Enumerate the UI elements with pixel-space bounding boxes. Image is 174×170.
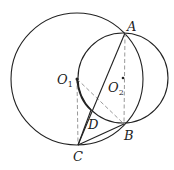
label-d: D — [87, 117, 99, 132]
label-b: B — [123, 128, 134, 143]
label-o2: O2 — [108, 80, 124, 97]
point-o2 — [122, 77, 125, 80]
point-o1 — [76, 78, 79, 81]
label-a: A — [126, 19, 136, 34]
label-o1: O1 — [57, 72, 73, 89]
geometry-diagram: A O1 O2 D B C — [0, 0, 174, 170]
arc-o1-d — [77, 79, 91, 110]
label-c: C — [73, 149, 83, 164]
